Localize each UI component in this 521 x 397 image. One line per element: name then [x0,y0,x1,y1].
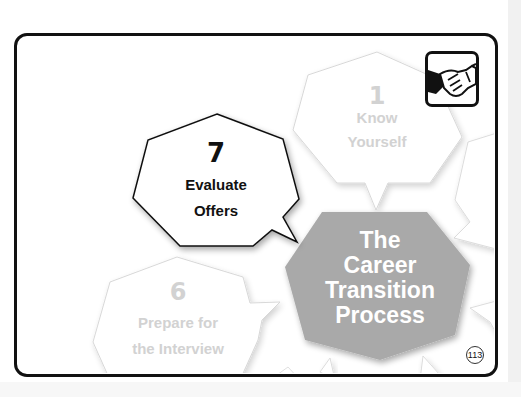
center-title-line-4: Process [300,303,460,327]
bubble-fragment [270,367,300,380]
step-7-label-line-2: Offers [166,202,266,219]
step-4-bubble-fragment [320,358,335,380]
step-1-label-line-1: Know [327,109,427,126]
step-1-label-line-2: Yourself [327,133,427,150]
page-number: 113 [466,346,484,364]
step-7-label-line-1: Evaluate [166,176,266,193]
step-6-number: 6 [158,278,198,306]
center-title-line-2: Career [300,253,460,277]
handshake-icon [425,51,479,107]
center-title-line-3: Transition [295,278,465,302]
step-2-bubble-fragment [454,132,500,250]
step-3-bubble-fragment [470,300,500,340]
step-6-label-line-1: Prepare for [113,314,243,331]
step-1-number: 1 [357,82,397,110]
center-title-line-1: The [300,228,460,252]
step-5-bubble-fragment [420,356,440,380]
step-7-number: 7 [196,138,236,168]
step-6-label-line-2: the Interview [113,340,243,357]
